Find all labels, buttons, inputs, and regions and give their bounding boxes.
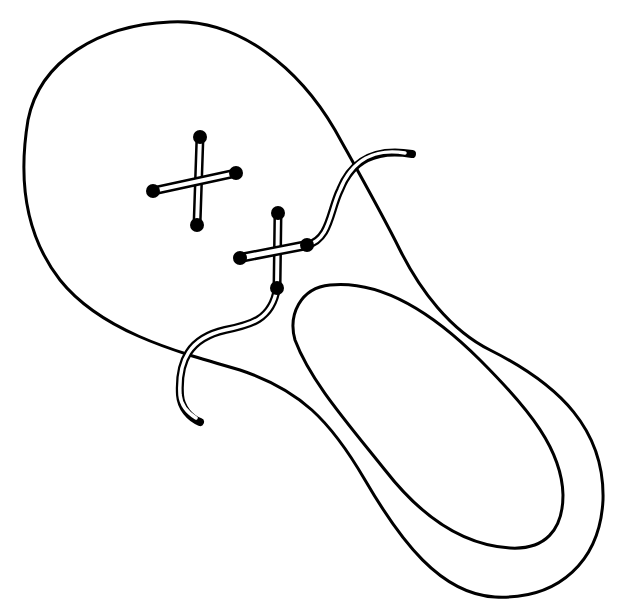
eyelet (146, 184, 160, 198)
eyelet (271, 206, 285, 220)
eyelet (190, 218, 204, 232)
lace-end-right (307, 152, 412, 245)
shoe-opening (293, 284, 563, 548)
eyelet (300, 238, 314, 252)
eyelet (270, 281, 284, 295)
shoe-illustration (0, 0, 619, 616)
shoe-outline (24, 22, 603, 597)
eyelet (229, 166, 243, 180)
second-lace-cross (240, 213, 307, 288)
eyelet (233, 251, 247, 265)
eyelets (146, 130, 314, 295)
first-lace-cross (153, 137, 236, 225)
eyelet (193, 130, 207, 144)
